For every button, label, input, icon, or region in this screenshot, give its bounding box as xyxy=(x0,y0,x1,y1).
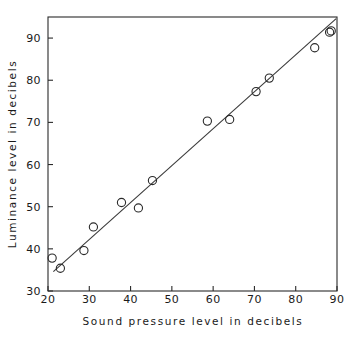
chart-figure: 2030405060708090 30405060708090 Sound pr… xyxy=(0,0,352,337)
scatter-plot: 2030405060708090 30405060708090 Sound pr… xyxy=(0,0,352,337)
x-tick-label: 50 xyxy=(164,293,179,306)
x-axis-title: Sound pressure level in decibels xyxy=(83,315,304,327)
y-tick-label: 30 xyxy=(26,285,41,298)
x-tick-label: 60 xyxy=(206,293,221,306)
y-tick-label: 70 xyxy=(26,116,41,129)
x-tick-label: 40 xyxy=(123,293,138,306)
y-tick-label: 90 xyxy=(26,32,41,45)
y-tick-label: 50 xyxy=(26,201,41,214)
plot-background xyxy=(0,0,352,337)
y-tick-label: 40 xyxy=(26,243,41,256)
y-axis-title: Luminance level in decibels xyxy=(6,60,18,249)
x-tick-label: 20 xyxy=(41,293,56,306)
x-tick-label: 90 xyxy=(330,293,345,306)
x-tick-label: 70 xyxy=(247,293,262,306)
x-tick-label: 80 xyxy=(288,293,303,306)
y-tick-label: 80 xyxy=(26,74,41,87)
y-tick-label: 60 xyxy=(26,159,41,172)
x-tick-label: 30 xyxy=(82,293,97,306)
